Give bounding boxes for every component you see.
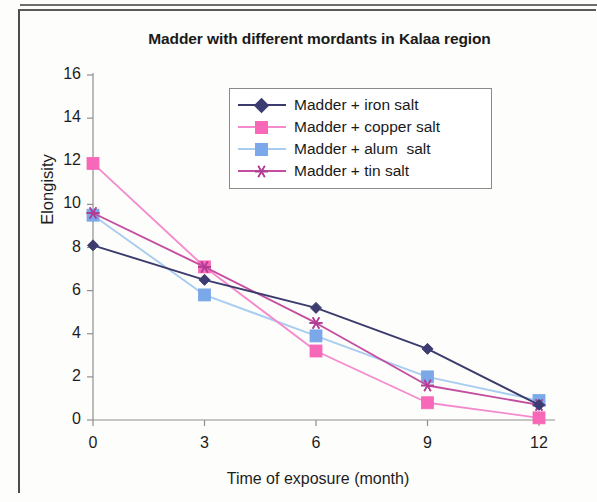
x-tick-label: 6 (296, 434, 336, 452)
y-tick-label: 4 (35, 324, 81, 342)
legend-item-label: Madder + copper salt (294, 118, 440, 136)
legend-key-star-icon (236, 162, 288, 180)
y-tick-label: 10 (35, 194, 81, 212)
legend-marker-star-icon (254, 164, 269, 179)
legend-item[interactable]: Madder + copper salt (236, 116, 485, 138)
y-tick-label: 8 (35, 238, 81, 256)
legend-key-square-icon (236, 140, 288, 158)
legend-key-square-icon (236, 118, 288, 136)
y-tick-label: 2 (35, 367, 81, 385)
legend-marker-square-icon (255, 143, 268, 156)
chart-legend: Madder + iron saltMadder + copper saltMa… (229, 88, 492, 189)
legend-item-label: Madder + alum salt (294, 140, 431, 158)
legend-item[interactable]: Madder + alum salt (236, 138, 485, 160)
legend-marker-diamond-icon (254, 98, 270, 114)
legend-key-diamond-icon (236, 96, 288, 114)
scanned-page: Madder with different mordants in Kalaa … (0, 0, 597, 502)
y-tick-label: 0 (35, 410, 81, 428)
legend-marker-square-icon (255, 121, 268, 134)
data-series (87, 157, 546, 423)
legend-items: Madder + iron saltMadder + copper saltMa… (236, 94, 485, 182)
x-tick-label: 0 (73, 434, 113, 452)
x-tick-label: 12 (519, 434, 559, 452)
legend-item-label: Madder + iron salt (294, 96, 419, 114)
y-tick-label: 16 (35, 65, 81, 83)
x-axis-label: Time of exposure (month) (93, 470, 543, 488)
y-tick-label: 6 (35, 281, 81, 299)
y-tick-label: 14 (35, 108, 81, 126)
y-tick-label: 12 (35, 151, 81, 169)
legend-item[interactable]: Madder + tin salt (236, 160, 485, 182)
chart-plot-area: Elongisity Time of exposure (month) 0246… (0, 0, 597, 502)
chart-svg (0, 0, 597, 502)
legend-item-label: Madder + tin salt (294, 162, 409, 180)
x-tick-label: 3 (185, 434, 225, 452)
legend-item[interactable]: Madder + iron salt (236, 94, 485, 116)
x-tick-label: 9 (408, 434, 448, 452)
